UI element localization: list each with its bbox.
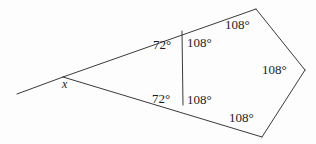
pentagon-left-side xyxy=(182,31,183,105)
angle-label-interior-bottom-left: 72° xyxy=(152,92,170,105)
angle-label-pentagon-top: 108° xyxy=(225,18,250,31)
angle-label-pentagon-bottom-left: 108° xyxy=(187,93,212,106)
angle-label-pentagon-bottom: 108° xyxy=(229,111,254,124)
lower-arm-line xyxy=(63,77,262,137)
angle-label-x: x xyxy=(62,78,67,90)
pentagon-upper-right-side xyxy=(256,9,305,70)
angle-label-interior-top-left: 72° xyxy=(153,38,171,51)
geometry-figure: x 72° 108° 72° 108° 108° 108° 108° xyxy=(0,0,316,144)
pentagon-lower-right-side xyxy=(262,70,305,137)
angle-label-pentagon-top-left: 108° xyxy=(187,36,212,49)
extension-ray-left xyxy=(17,77,63,94)
angle-label-pentagon-right: 108° xyxy=(262,63,287,76)
